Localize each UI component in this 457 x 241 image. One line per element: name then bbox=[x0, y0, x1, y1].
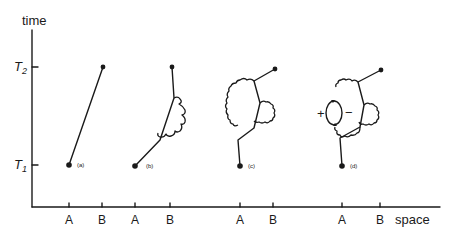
tick-label-b3: B bbox=[269, 213, 277, 227]
space-axis-label: space bbox=[395, 212, 430, 227]
photon-loop-c-left bbox=[226, 79, 255, 126]
panel-a: (a) bbox=[66, 65, 105, 168]
feynman-diagram: time T2 T1 space A B A B A B A B (a) (b) bbox=[0, 0, 457, 241]
panel-a-label: (a) bbox=[77, 162, 84, 168]
panel-b: (b) bbox=[132, 65, 185, 169]
t1-label: T1 bbox=[14, 157, 27, 174]
t2-label: T2 bbox=[14, 59, 27, 76]
panel-c-label: (c) bbox=[248, 163, 255, 169]
tick-label-a4: A bbox=[338, 213, 346, 227]
photon-arc-d-top bbox=[336, 79, 358, 87]
tick-label-b2: B bbox=[166, 213, 174, 227]
panel-d: + − (d) bbox=[317, 68, 383, 169]
photon-loop-b bbox=[158, 97, 185, 137]
vacuum-bubble bbox=[326, 101, 342, 125]
time-axis-label: time bbox=[22, 13, 47, 28]
plus-sign: + bbox=[317, 106, 325, 121]
panel-b-label: (b) bbox=[146, 163, 153, 169]
tick-label-a3: A bbox=[236, 213, 244, 227]
panel-d-label: (d) bbox=[350, 163, 357, 169]
panel-c: (c) bbox=[226, 67, 278, 169]
minus-sign: − bbox=[345, 105, 353, 120]
tick-label-b1: B bbox=[98, 213, 106, 227]
tick-label-a1: A bbox=[65, 213, 73, 227]
tick-label-b4: B bbox=[376, 213, 384, 227]
tick-label-a2: A bbox=[131, 213, 139, 227]
